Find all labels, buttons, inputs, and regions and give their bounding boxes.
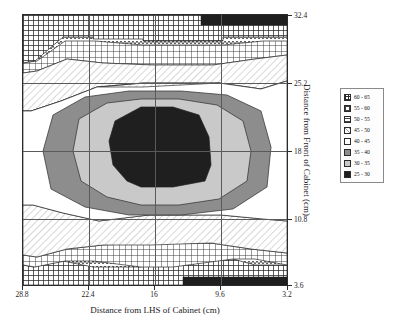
legend-item[interactable]: 25 - 30 xyxy=(344,169,381,179)
legend-swatch-35-40 xyxy=(344,149,351,156)
x-axis-title: Distance from LHS of Cabinet (cm) xyxy=(22,305,288,315)
tick-y-10-8 xyxy=(288,219,292,220)
gridline-horizontal-10-8 xyxy=(23,219,287,220)
gridline-vertical-9-6 xyxy=(221,15,222,285)
tick-y-3-6 xyxy=(288,285,292,286)
gridline-vertical-16 xyxy=(155,15,156,285)
legend: 60 - 65 55 - 60 50 - 55 45 - 50 40 - 45 … xyxy=(340,88,384,183)
legend-label: 50 - 55 xyxy=(354,116,370,123)
legend-swatch-50-55 xyxy=(344,116,351,123)
legend-swatch-30-35 xyxy=(344,160,351,167)
legend-swatch-55-60 xyxy=(344,105,351,112)
legend-label: 35 - 40 xyxy=(354,149,370,156)
legend-item[interactable]: 40 - 45 xyxy=(344,136,381,146)
gridline-vertical-22-4 xyxy=(89,15,90,285)
x-tick-label-3: 9.6 xyxy=(215,290,224,299)
contour-chart-figure: 28.8 22.4 16 9.6 3.2 32.4 25.2 18 10.8 3… xyxy=(0,0,401,326)
legend-item[interactable]: 55 - 60 xyxy=(344,103,381,113)
x-tick-label-2: 16 xyxy=(150,290,158,299)
legend-item[interactable]: 50 - 55 xyxy=(344,114,381,124)
x-tick-label-1: 22.4 xyxy=(81,290,94,299)
x-tick-label-0: 28.8 xyxy=(15,290,28,299)
plot-area xyxy=(22,14,288,286)
legend-item[interactable]: 60 - 65 xyxy=(344,92,381,102)
legend-swatch-40-45 xyxy=(344,138,351,145)
legend-label: 60 - 65 xyxy=(354,94,370,101)
legend-label: 30 - 35 xyxy=(354,160,370,167)
legend-label: 40 - 45 xyxy=(354,138,370,145)
y-tick-label-2: 18 xyxy=(294,147,302,156)
tick-y-32-4 xyxy=(288,15,292,16)
gridline-horizontal-25-2 xyxy=(23,83,287,84)
legend-item[interactable]: 30 - 35 xyxy=(344,158,381,168)
x-tick-label-4: 3.2 xyxy=(282,290,291,299)
y-tick-label-0: 32.4 xyxy=(294,11,307,20)
legend-swatch-45-50 xyxy=(344,127,351,134)
legend-label: 55 - 60 xyxy=(354,105,370,112)
legend-label: 25 - 30 xyxy=(354,171,370,178)
tick-y-18 xyxy=(288,151,292,152)
legend-item[interactable]: 35 - 40 xyxy=(344,147,381,157)
legend-label: 45 - 50 xyxy=(354,127,370,134)
y-axis-title: Distance from Front of Cabinet (cm) xyxy=(302,84,312,216)
legend-swatch-60-65 xyxy=(344,94,351,101)
tick-y-25-2 xyxy=(288,83,292,84)
legend-swatch-25-30 xyxy=(344,171,351,178)
legend-item[interactable]: 45 - 50 xyxy=(344,125,381,135)
gridline-horizontal-18 xyxy=(23,151,287,152)
y-tick-label-4: 3.6 xyxy=(294,281,303,290)
